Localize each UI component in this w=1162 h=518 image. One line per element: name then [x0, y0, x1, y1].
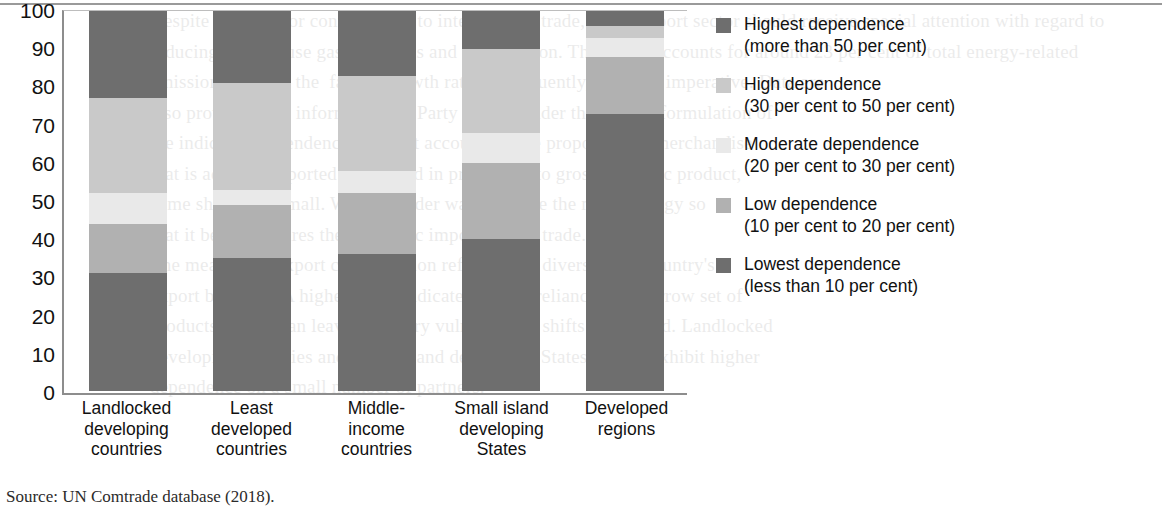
x-axis-label-line: income — [314, 419, 439, 440]
x-axis-label-4: Small islanddevelopingStates — [439, 398, 564, 460]
bar-segment[interactable] — [462, 163, 540, 239]
bar-segment[interactable] — [213, 83, 291, 189]
x-axis-label-line: Small island — [439, 398, 564, 419]
bar-segment[interactable] — [462, 49, 540, 133]
bar-group-2 — [190, 11, 314, 391]
legend-label-line1: Lowest dependence — [744, 254, 901, 274]
legend-label-line2: (20 per cent to 30 per cent) — [744, 156, 955, 178]
x-axis-label-line: countries — [189, 439, 314, 460]
x-axis-label-line: Developed — [564, 398, 689, 419]
legend-swatch-icon — [716, 18, 731, 33]
bar-segment[interactable] — [89, 98, 167, 193]
y-axis-tick-90: 90 — [32, 37, 55, 61]
bar-segment[interactable] — [462, 11, 540, 49]
x-axis-label-5: Developedregions — [564, 398, 689, 460]
bar-segment[interactable] — [338, 171, 416, 194]
bar-segment[interactable] — [89, 193, 167, 223]
legend-item-high-dependence[interactable]: High dependence(30 per cent to 50 per ce… — [716, 74, 1146, 117]
bar-segment[interactable] — [586, 57, 664, 114]
x-axis-label-line: Middle- — [314, 398, 439, 419]
bar-segment[interactable] — [89, 224, 167, 273]
x-axis-label-2: Leastdevelopedcountries — [189, 398, 314, 460]
bar-segment[interactable] — [213, 190, 291, 205]
bar-group-5 — [563, 11, 687, 391]
y-axis-tick-100: 100 — [20, 0, 55, 23]
legend-swatch-icon — [716, 258, 731, 273]
x-axis-label-3: Middle-incomecountries — [314, 398, 439, 460]
bar-segment[interactable] — [586, 11, 664, 26]
legend-label: High dependence(30 per cent to 50 per ce… — [744, 74, 955, 117]
bar-segment[interactable] — [462, 133, 540, 163]
legend-label-line1: Low dependence — [744, 194, 877, 214]
legend-label: Moderate dependence(20 per cent to 30 pe… — [744, 134, 955, 177]
legend-label-line2: (30 per cent to 50 per cent) — [744, 96, 955, 118]
x-axis-label-line: developing — [439, 419, 564, 440]
bar-segment[interactable] — [586, 38, 664, 57]
y-axis-tick-80: 80 — [32, 75, 55, 99]
x-axis-label-line: regions — [564, 419, 689, 440]
y-axis-tick-30: 30 — [32, 266, 55, 290]
x-axis-label-line: countries — [314, 439, 439, 460]
y-axis-tick-60: 60 — [32, 152, 55, 176]
y-axis-tick-20: 20 — [32, 305, 55, 329]
bar-segment[interactable] — [586, 114, 664, 391]
y-axis-tick-70: 70 — [32, 114, 55, 138]
y-axis-tick-50: 50 — [32, 190, 55, 214]
legend-label-line2: (less than 10 per cent) — [744, 276, 918, 298]
x-axis-label-line: Landlocked — [64, 398, 189, 419]
stacked-bar[interactable] — [586, 11, 664, 391]
bar-segment[interactable] — [213, 258, 291, 391]
x-axis-label-line: States — [439, 439, 564, 460]
bar-segment[interactable] — [338, 11, 416, 76]
legend-label-line1: High dependence — [744, 74, 881, 94]
x-axis-label-1: Landlockeddevelopingcountries — [64, 398, 189, 460]
stacked-bar[interactable] — [213, 11, 291, 391]
bar-segment[interactable] — [586, 26, 664, 37]
bar-segment[interactable] — [462, 239, 540, 391]
bar-segment[interactable] — [213, 11, 291, 83]
stacked-bars — [66, 11, 687, 391]
bar-segment[interactable] — [89, 11, 167, 98]
chart-axes: 1009080706050403020100 — [62, 10, 687, 395]
legend-label: Low dependence(10 per cent to 20 per cen… — [744, 194, 955, 237]
y-axis-tick-40: 40 — [32, 228, 55, 252]
legend-swatch-icon — [716, 138, 731, 153]
chart-legend: Highest dependence(more than 50 per cent… — [716, 14, 1146, 314]
x-axis-category-labels: LandlockeddevelopingcountriesLeastdevelo… — [64, 398, 689, 460]
y-axis-tick-10: 10 — [32, 343, 55, 367]
stacked-bar[interactable] — [462, 11, 540, 391]
bar-group-1 — [66, 11, 190, 391]
x-axis-label-line: Least — [189, 398, 314, 419]
bar-segment[interactable] — [213, 205, 291, 258]
legend-label-line2: (10 per cent to 20 per cent) — [744, 216, 955, 238]
legend-label: Highest dependence(more than 50 per cent… — [744, 14, 927, 57]
legend-item-moderate-dependence[interactable]: Moderate dependence(20 per cent to 30 pe… — [716, 134, 1146, 177]
legend-swatch-icon — [716, 78, 731, 93]
source-note: Source: UN Comtrade database (2018). — [6, 487, 275, 507]
x-axis-label-line: developing — [64, 419, 189, 440]
y-axis-tick-0: 0 — [43, 381, 55, 405]
bar-segment[interactable] — [338, 193, 416, 254]
legend-label-line1: Highest dependence — [744, 14, 905, 34]
legend-item-low-dependence[interactable]: Low dependence(10 per cent to 20 per cen… — [716, 194, 1146, 237]
chart-plot-area: 1009080706050403020100 — [62, 10, 687, 395]
legend-label-line1: Moderate dependence — [744, 134, 919, 154]
bar-group-3 — [314, 11, 438, 391]
stacked-bar[interactable] — [89, 11, 167, 391]
bar-segment[interactable] — [338, 76, 416, 171]
x-axis-label-line: developed — [189, 419, 314, 440]
bar-segment[interactable] — [89, 273, 167, 391]
legend-label-line2: (more than 50 per cent) — [744, 36, 927, 58]
legend-item-lowest-dependence[interactable]: Lowest dependence(less than 10 per cent) — [716, 254, 1146, 297]
bar-group-4 — [439, 11, 563, 391]
stacked-bar[interactable] — [338, 11, 416, 391]
legend-item-highest-dependence[interactable]: Highest dependence(more than 50 per cent… — [716, 14, 1146, 57]
legend-swatch-icon — [716, 198, 731, 213]
bar-segment[interactable] — [338, 254, 416, 391]
x-axis-label-line: countries — [64, 439, 189, 460]
legend-label: Lowest dependence(less than 10 per cent) — [744, 254, 918, 297]
